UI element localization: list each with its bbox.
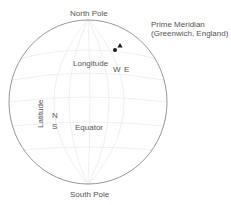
north-pole-label: North Pole [70,10,108,18]
west-label: W [113,66,121,74]
east-label: E [124,66,129,74]
latitude-label: Latitude [37,100,45,128]
prime-meridian-label: Prime Meridian [151,21,205,29]
equator-label: Equator [75,124,103,132]
south-pole-label: South Pole [70,191,109,199]
prime-meridian-location-label: (Greenwich, England) [151,30,228,38]
north-label: N [52,112,58,120]
longitude-label: Longitude [73,60,108,68]
triangle-marker-icon [118,43,123,48]
south-label: S [52,123,57,131]
location-dot-icon [113,48,117,52]
globe-outline [9,20,167,184]
